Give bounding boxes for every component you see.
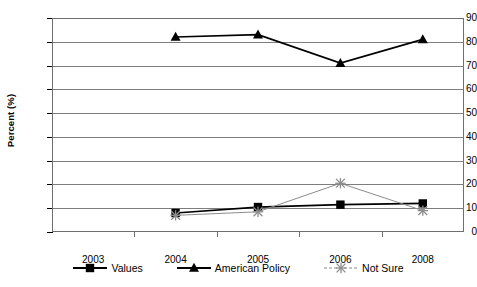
data-point-marker bbox=[253, 207, 263, 217]
x-axis-tick-mark bbox=[299, 232, 300, 237]
legend-marker-icon bbox=[324, 262, 358, 274]
series-line bbox=[176, 203, 423, 213]
data-point-marker bbox=[336, 200, 344, 208]
line-chart: Percent (%) 0102030405060708090 20032004… bbox=[0, 0, 477, 287]
data-point-marker bbox=[418, 205, 428, 215]
legend-item[interactable]: Not Sure bbox=[324, 262, 403, 274]
x-axis-tick-mark bbox=[217, 232, 218, 237]
legend-item-label: Not Sure bbox=[362, 262, 403, 274]
data-point-marker bbox=[335, 178, 345, 188]
legend-item-label: Values bbox=[111, 262, 142, 274]
data-series bbox=[171, 199, 427, 217]
data-point-marker bbox=[86, 264, 94, 272]
legend-marker-icon bbox=[177, 262, 211, 274]
chart-legend: ValuesAmerican PolicyNot Sure bbox=[0, 262, 477, 274]
y-axis-title-label: Percent (%) bbox=[6, 93, 17, 146]
plot-area: 20032004200520062008 bbox=[52, 18, 464, 232]
series-line bbox=[176, 35, 423, 64]
legend-item[interactable]: American Policy bbox=[177, 262, 290, 274]
data-point-marker bbox=[336, 263, 346, 273]
y-axis-title: Percent (%) bbox=[0, 0, 22, 240]
data-series bbox=[171, 29, 428, 67]
legend-item-label: American Policy bbox=[215, 262, 290, 274]
legend-marker-icon bbox=[73, 262, 107, 274]
x-axis-tick-mark bbox=[134, 232, 135, 237]
x-axis-tick-mark bbox=[382, 232, 383, 237]
data-series bbox=[170, 178, 428, 221]
data-point-marker bbox=[170, 210, 180, 220]
legend-item[interactable]: Values bbox=[73, 262, 142, 274]
series-layer bbox=[52, 18, 464, 232]
data-point-marker bbox=[418, 34, 428, 43]
